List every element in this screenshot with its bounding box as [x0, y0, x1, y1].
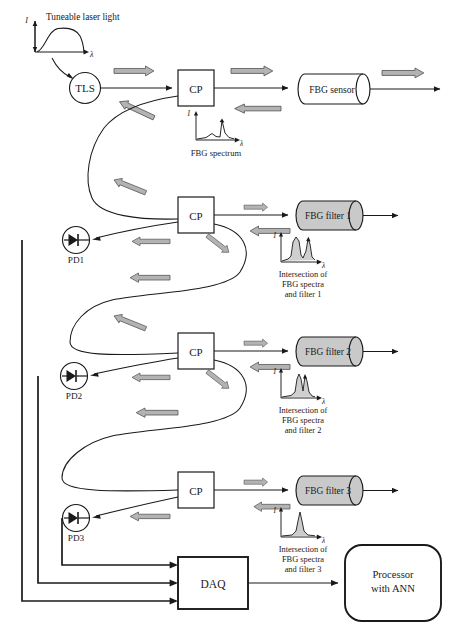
inset4-y-axis-label: I	[273, 506, 277, 515]
inset2-y-axis-label: I	[273, 231, 277, 240]
daq-node[interactable]: DAQ	[178, 557, 248, 609]
inset3-caption-line-3: and filter 2	[285, 426, 322, 435]
inset3-y-axis-label: I	[273, 367, 277, 376]
coupler-cp4[interactable]: CP	[178, 472, 214, 508]
device-fbg-sensor[interactable]: FBG sensor	[298, 74, 370, 104]
fbg-filter-1-label: FBG filter 1	[305, 211, 351, 221]
coupler-cp4-label: CP	[189, 485, 202, 497]
inset3-caption-line-1: Intersection of	[279, 406, 328, 415]
fbg-sensor-label: FBG sensor	[309, 84, 355, 95]
tls-node[interactable]: TLS	[70, 73, 101, 104]
inset2-caption-line-3: and filter 1	[285, 290, 322, 299]
inset1-caption-line-1: FBG spectrum	[191, 148, 242, 158]
tuneable-laser-light-label: Tuneable laser light	[46, 12, 120, 22]
fbg-sensor-system-diagram: I λ Tuneable laser light TLS CP FBG sens…	[0, 0, 461, 636]
fbg-filter-3-label: FBG filter 3	[305, 486, 351, 496]
tls-label: TLS	[75, 82, 95, 94]
daq-label: DAQ	[201, 578, 227, 590]
photodiode-pd1-label: PD1	[68, 255, 85, 265]
inset2-caption-line-1: Intersection of	[279, 270, 328, 279]
coupler-cp1[interactable]: CP	[178, 70, 214, 106]
photodiode-pd2-label: PD2	[66, 391, 83, 401]
photodiode-pd3-label: PD3	[68, 533, 85, 543]
laser-inset-x-axis-label: λ	[89, 50, 94, 59]
inset1-y-axis-label: I	[187, 109, 191, 118]
coupler-cp3-label: CP	[189, 346, 202, 358]
coupler-cp2[interactable]: CP	[178, 197, 214, 233]
inset2-caption-line-2: FBG spectra	[282, 280, 324, 289]
coupler-cp3[interactable]: CP	[178, 333, 214, 369]
inset3-caption-line-2: FBG spectra	[282, 416, 324, 425]
processor-node[interactable]: Processor with ANN	[345, 545, 441, 621]
device-fbg-filter-3[interactable]: FBG filter 3	[296, 476, 363, 505]
inset4-caption-line-1: Intersection of	[279, 545, 328, 554]
inset4-caption-line-3: and filter 3	[285, 565, 322, 574]
coupler-cp1-label: CP	[189, 83, 202, 95]
processor-label-line-1: Processor	[372, 569, 414, 580]
processor-label-line-2: with ANN	[371, 583, 415, 594]
fbg-filter-2-label: FBG filter 2	[305, 347, 351, 357]
device-fbg-filter-1[interactable]: FBG filter 1	[296, 201, 363, 230]
inset4-caption-line-2: FBG spectra	[282, 555, 324, 564]
laser-inset-y-axis-label: I	[24, 16, 28, 25]
device-fbg-filter-2[interactable]: FBG filter 2	[296, 337, 363, 366]
coupler-cp2-label: CP	[189, 210, 202, 222]
